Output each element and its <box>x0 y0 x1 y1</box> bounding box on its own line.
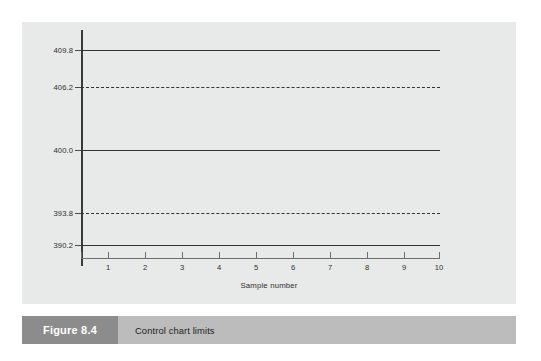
x-axis-label-7: 7 <box>328 263 332 272</box>
control-line-upper-warning <box>81 87 440 88</box>
figure-number-tag: Figure 8.4 <box>22 316 118 344</box>
x-tick-6 <box>293 252 294 259</box>
x-tick-3 <box>182 252 183 259</box>
y-axis-label-390-2: 390.2 <box>53 241 73 250</box>
x-axis-label-4: 4 <box>217 263 221 272</box>
x-axis-title: Sample number <box>22 281 516 290</box>
figure-caption-text: Control chart limits <box>118 316 516 344</box>
figure-container: 409.8 406.2 400.0 393.8 390.2 <box>0 0 541 361</box>
control-line-lower-warning <box>81 213 440 214</box>
x-axis-label-6: 6 <box>291 263 295 272</box>
y-axis-label-406-2: 406.2 <box>53 83 73 92</box>
x-tick-1 <box>108 252 109 259</box>
x-axis-label-5: 5 <box>254 263 258 272</box>
x-tick-4 <box>219 252 220 259</box>
y-axis-line <box>81 30 83 266</box>
control-line-lower-action <box>81 245 440 246</box>
x-tick-2 <box>145 252 146 259</box>
x-axis-label-9: 9 <box>402 263 406 272</box>
x-tick-8 <box>367 252 368 259</box>
y-axis-label-393-8: 393.8 <box>53 209 73 218</box>
x-axis-label-10: 10 <box>435 263 443 272</box>
figure-caption-bar: Figure 8.4 Control chart limits <box>22 316 516 344</box>
control-line-upper-action <box>81 50 440 51</box>
x-axis-label-1: 1 <box>106 263 110 272</box>
x-tick-9 <box>404 252 405 259</box>
x-tick-origin <box>81 252 82 259</box>
x-axis-label-2: 2 <box>143 263 147 272</box>
control-line-centre <box>81 150 440 151</box>
chart-panel: 409.8 406.2 400.0 393.8 390.2 <box>22 22 516 304</box>
x-tick-7 <box>330 252 331 259</box>
x-axis-label-3: 3 <box>180 263 184 272</box>
x-axis-label-8: 8 <box>365 263 369 272</box>
plot-area: 409.8 406.2 400.0 393.8 390.2 <box>22 22 516 304</box>
y-axis-label-400-0: 400.0 <box>53 146 73 155</box>
x-tick-5 <box>256 252 257 259</box>
x-tick-10 <box>439 252 440 259</box>
x-axis-line <box>81 258 439 259</box>
y-axis-label-409-8: 409.8 <box>53 46 73 55</box>
